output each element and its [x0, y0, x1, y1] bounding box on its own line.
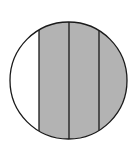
strip-unshaded — [0, 0, 39, 152]
strip-shaded-1 — [39, 0, 69, 152]
fraction-circle-diagram — [0, 0, 136, 152]
strip-shaded-3 — [99, 0, 136, 152]
